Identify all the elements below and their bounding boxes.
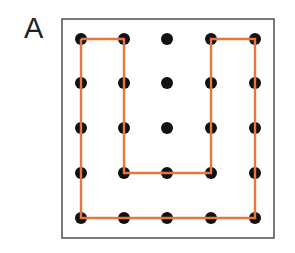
grid-dot <box>161 122 173 134</box>
grid-dot <box>161 33 173 45</box>
grid-dot <box>161 77 173 89</box>
dot-grid <box>75 33 261 224</box>
dot-grid-diagram <box>0 0 295 253</box>
